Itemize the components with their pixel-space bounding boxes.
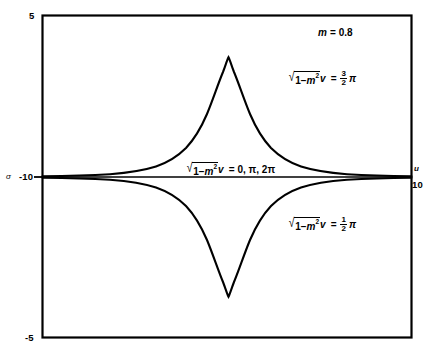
y-axis-min-label: -5	[25, 333, 34, 343]
fraction-denominator: 2	[340, 78, 346, 87]
y-axis-symbol-label: σ	[6, 173, 11, 181]
plot-canvas	[0, 0, 428, 356]
parameter-equals: =	[330, 28, 336, 38]
pi-symbol: π	[349, 74, 356, 84]
x-axis-max-label: 10	[412, 180, 423, 190]
parameter-value: 0.8	[339, 28, 353, 38]
lower-curve-annotation: √ 1−m2 v = 1 2 π	[288, 216, 356, 233]
sqrt-icon: √ 1−m2	[186, 162, 218, 177]
pi-symbol: π	[349, 220, 356, 230]
radicand: 1−m2	[294, 71, 320, 86]
fraction-denominator: 2	[340, 224, 346, 233]
sqrt-icon: √ 1−m2	[288, 71, 320, 86]
fraction: 1 2	[340, 216, 346, 233]
curve-upper-branch	[43, 57, 412, 176]
radicand-exponent: 2	[315, 72, 319, 79]
radical-sign-glyph: √	[289, 217, 295, 232]
x-axis-symbol-label: u	[414, 165, 419, 173]
equals-sign: =	[331, 220, 337, 230]
figure-container: 5 -5 σ -10 u 10 m = 0.8 √ 1−m2 v = 3 2 π	[0, 0, 428, 356]
radical-sign-glyph: √	[187, 162, 193, 177]
parameter-annotation: m = 0.8	[318, 28, 353, 38]
equals-sign: =	[331, 74, 337, 84]
radicand-exponent: 2	[213, 163, 217, 170]
radicand-exponent: 2	[315, 218, 319, 225]
middle-curve-annotation: √ 1−m2 v = 0, π, 2π	[186, 162, 275, 177]
v-variable: v	[320, 74, 326, 84]
sqrt-icon: √ 1−m2	[288, 217, 320, 232]
fraction-numerator: 3	[340, 70, 346, 78]
radicand: 1−m2	[294, 217, 320, 232]
fraction-numerator: 1	[340, 216, 346, 224]
y-axis-max-label: 5	[29, 11, 34, 21]
radical-sign-glyph: √	[289, 71, 295, 86]
radicand: 1−m2	[192, 162, 218, 177]
upper-curve-annotation: √ 1−m2 v = 3 2 π	[288, 70, 356, 87]
v-variable: v	[218, 165, 224, 175]
value-list: 0, π, 2π	[237, 165, 275, 175]
parameter-symbol: m	[318, 28, 327, 38]
fraction: 3 2	[340, 70, 346, 87]
curve-lower-branch	[43, 178, 412, 297]
equals-sign: =	[229, 165, 235, 175]
v-variable: v	[320, 220, 326, 230]
x-axis-min-label: -10	[19, 172, 33, 182]
